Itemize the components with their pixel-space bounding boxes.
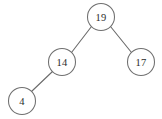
node-label-17: 17: [136, 57, 147, 68]
tree-node-17[interactable]: 17: [128, 49, 155, 76]
node-label-19: 19: [96, 12, 107, 23]
edge-19-14: [72, 27, 92, 53]
edge-14-4: [32, 72, 53, 92]
edge-19-17: [111, 27, 132, 53]
tree-canvas: 19 14 17 4: [0, 0, 162, 119]
binary-tree-diagram: 19 14 17 4: [0, 0, 162, 119]
node-label-14: 14: [57, 57, 68, 68]
tree-node-14[interactable]: 14: [49, 49, 76, 76]
tree-node-4[interactable]: 4: [9, 88, 36, 115]
tree-node-19[interactable]: 19: [88, 4, 115, 31]
node-label-4: 4: [19, 96, 25, 107]
tree-edges: [32, 27, 132, 92]
